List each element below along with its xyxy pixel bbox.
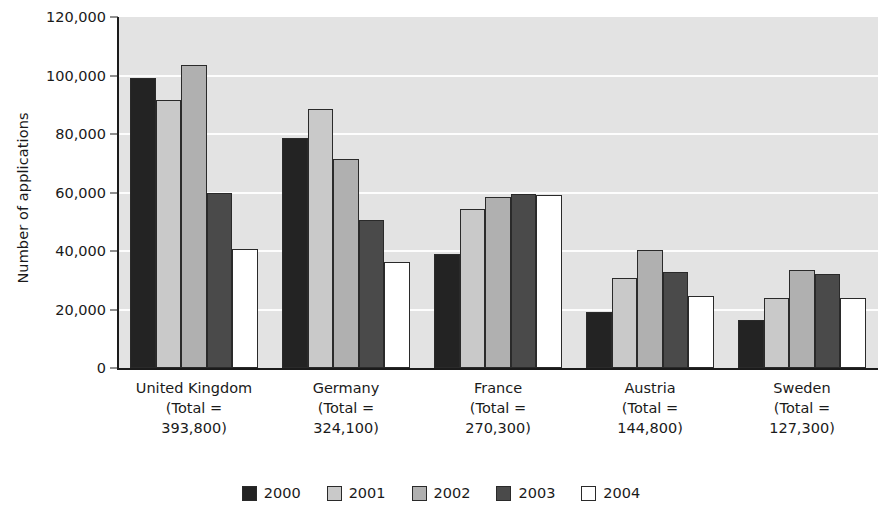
- legend-label: 2003: [518, 486, 555, 501]
- category-total-value: 144,800): [617, 418, 683, 438]
- bar-austria-2004: [688, 296, 714, 368]
- y-axis-tick-mark: [110, 309, 118, 310]
- bar-france-2004: [536, 195, 562, 368]
- legend-item-2001: 2001: [327, 486, 386, 501]
- y-axis-tick-mark: [110, 192, 118, 193]
- y-axis-tick-mark: [110, 134, 118, 135]
- bar-united-kingdom-2004: [232, 249, 258, 368]
- bar-sweden-2003: [815, 274, 841, 368]
- y-axis-tick-mark: [110, 75, 118, 76]
- category-total-prefix: (Total =: [769, 398, 835, 418]
- category-total-prefix: (Total =: [465, 398, 531, 418]
- bar-united-kingdom-2003: [207, 193, 233, 368]
- category-name: United Kingdom: [136, 378, 252, 398]
- bar-germany-2004: [384, 262, 410, 368]
- bar-germany-2000: [282, 138, 308, 368]
- bar-sweden-2001: [764, 298, 790, 368]
- bar-austria-2001: [612, 278, 638, 368]
- category-name: Germany: [313, 378, 380, 398]
- bar-austria-2000: [586, 312, 612, 368]
- legend-item-2000: 2000: [242, 486, 301, 501]
- bar-france-2000: [434, 254, 460, 368]
- category-total-value: 270,300): [465, 418, 531, 438]
- category-total-prefix: (Total =: [617, 398, 683, 418]
- legend-swatch-icon: [581, 486, 596, 501]
- category-name: France: [465, 378, 531, 398]
- y-axis-tick-label: 40,000: [0, 244, 106, 259]
- bar-united-kingdom-2001: [156, 100, 182, 368]
- legend-label: 2000: [264, 486, 301, 501]
- bar-sweden-2004: [840, 298, 866, 368]
- y-axis-tick-label: 0: [0, 361, 106, 376]
- legend-swatch-icon: [412, 486, 427, 501]
- category-name: Sweden: [769, 378, 835, 398]
- bar-france-2001: [460, 209, 486, 368]
- bar-united-kingdom-2000: [130, 78, 156, 368]
- bar-united-kingdom-2002: [181, 65, 207, 368]
- y-axis-tick-label: 20,000: [0, 302, 106, 317]
- bar-france-2003: [511, 194, 537, 368]
- legend-swatch-icon: [242, 486, 257, 501]
- category-name: Austria: [617, 378, 683, 398]
- y-axis-tick-mark: [110, 17, 118, 18]
- category-total-prefix: (Total =: [313, 398, 380, 418]
- y-axis-tick-mark: [110, 251, 118, 252]
- chart-legend: 20002001200220032004: [0, 486, 882, 501]
- y-axis-tick-label: 60,000: [0, 185, 106, 200]
- legend-label: 2002: [434, 486, 471, 501]
- bar-austria-2003: [663, 272, 689, 368]
- y-axis-tick-labels: 020,00040,00060,00080,000100,000120,000: [0, 0, 106, 380]
- bar-chart: Number of applications 020,00040,00060,0…: [0, 0, 882, 525]
- legend-label: 2001: [349, 486, 386, 501]
- bar-germany-2002: [333, 159, 359, 368]
- bar-germany-2001: [308, 109, 334, 368]
- x-axis-category-label: United Kingdom(Total =393,800): [136, 378, 252, 438]
- x-axis-category-label: Germany(Total =324,100): [313, 378, 380, 438]
- y-axis-tick-label: 120,000: [0, 10, 106, 25]
- y-axis-tick-label: 100,000: [0, 68, 106, 83]
- legend-swatch-icon: [327, 486, 342, 501]
- bar-sweden-2000: [738, 320, 764, 368]
- bar-sweden-2002: [789, 270, 815, 368]
- legend-swatch-icon: [496, 486, 511, 501]
- plot-area: [118, 17, 878, 368]
- category-total-value: 393,800): [136, 418, 252, 438]
- x-axis-category-labels: United Kingdom(Total =393,800)Germany(To…: [118, 378, 878, 458]
- gridline: [118, 133, 878, 135]
- legend-item-2003: 2003: [496, 486, 555, 501]
- x-axis-category-label: Austria(Total =144,800): [617, 378, 683, 438]
- y-axis-tick-label: 80,000: [0, 127, 106, 142]
- gridline: [118, 75, 878, 77]
- bar-austria-2002: [637, 250, 663, 368]
- legend-item-2002: 2002: [412, 486, 471, 501]
- category-total-value: 127,300): [769, 418, 835, 438]
- category-total-prefix: (Total =: [136, 398, 252, 418]
- y-axis-line: [117, 17, 119, 369]
- legend-item-2004: 2004: [581, 486, 640, 501]
- x-axis-category-label: France(Total =270,300): [465, 378, 531, 438]
- bar-france-2002: [485, 197, 511, 368]
- x-axis-line: [117, 368, 878, 370]
- x-axis-category-label: Sweden(Total =127,300): [769, 378, 835, 438]
- bar-germany-2003: [359, 220, 385, 368]
- legend-label: 2004: [603, 486, 640, 501]
- y-axis-tick-mark: [110, 368, 118, 369]
- category-total-value: 324,100): [313, 418, 380, 438]
